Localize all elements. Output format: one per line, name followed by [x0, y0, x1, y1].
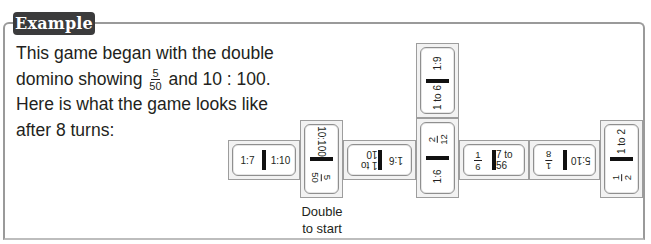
domino-7: 1 8 5:10 [529, 140, 600, 180]
domino-2-bottom: 5 50 [311, 172, 332, 183]
domino-4-bottom: 1 to 6 [432, 85, 443, 110]
example-badge: Example [13, 12, 95, 35]
domino-7-left: 1 8 [545, 150, 552, 171]
intro-line-1: This game began with the double [16, 41, 306, 67]
domino-8-bottom: 1 2 [611, 173, 632, 180]
domino-2-top: 10:100 [316, 126, 327, 157]
domino-1-right: 1:10 [266, 145, 295, 175]
domino-3-right: 1:6 [389, 155, 403, 166]
domino-4-top: 1:9 [432, 56, 443, 70]
intro-line-3: Here is what the game looks like [16, 92, 306, 118]
domino-2-double-start: 10:100 5 50 [300, 120, 343, 198]
domino-7-right: 5:10 [571, 155, 590, 166]
domino-4: 1:9 1 to 6 [416, 43, 459, 118]
domino-1: 1:7 1:10 [228, 140, 300, 180]
domino-3-left: 1 to 10 [348, 149, 378, 171]
domino-6-left: 1 6 [474, 150, 481, 171]
double-start-caption: Double to start [296, 203, 348, 237]
intro-text: This game began with the double domino s… [16, 41, 306, 143]
domino-3: 1 to 10 1:6 [343, 140, 416, 180]
domino-8: 1 to 2 1 2 [600, 120, 643, 198]
domino-1-left: 1:7 [233, 145, 262, 175]
domino-5-bottom: 1:6 [432, 170, 443, 184]
intro-line-2: domino showing 5 50 and 10 : 100. [16, 67, 306, 93]
start-fraction: 5 50 [149, 68, 161, 91]
domino-5: 2 12 1:6 [416, 118, 459, 198]
domino-6: 1 6 7 to 56 [459, 140, 529, 180]
domino-8-top: 1 to 2 [616, 128, 627, 153]
domino-5-top: 2 12 [427, 134, 448, 145]
domino-6-right: 7 to 56 [496, 145, 524, 175]
